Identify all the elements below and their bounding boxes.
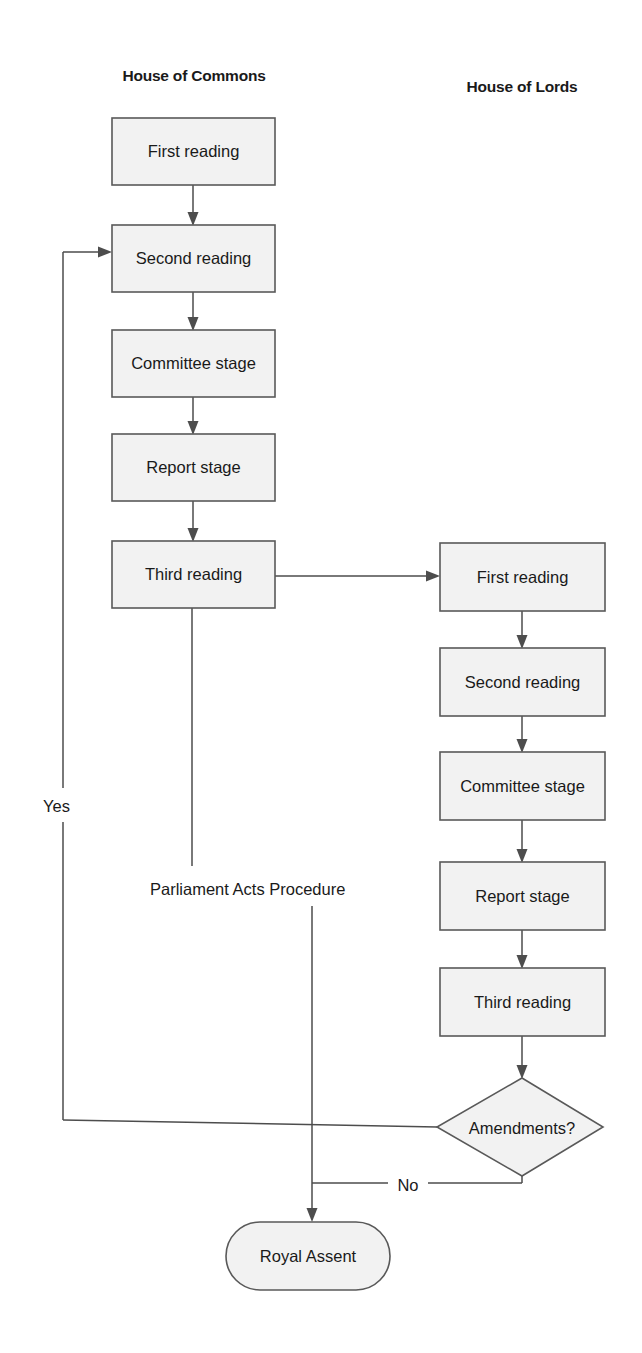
edge-parliament-acts-procedure-to-royal-assent: [192, 608, 318, 1222]
node-label-decision-amendments: Amendments?: [469, 1119, 575, 1137]
node-label-lords-first-reading: First reading: [477, 568, 569, 586]
node-label-lords-committee-stage: Committee stage: [460, 777, 585, 795]
node-label-commons-committee-stage: Committee stage: [131, 354, 256, 372]
annotation-parliament-acts-procedure: Parliament Acts Procedure: [150, 880, 345, 898]
edge-committee-stage-to-report-stage-commons: [188, 397, 199, 435]
node-commons-report-stage[interactable]: Report stage: [112, 434, 275, 501]
node-label-royal-assent: Royal Assent: [260, 1247, 357, 1265]
node-commons-third-reading[interactable]: Third reading: [112, 541, 275, 608]
node-commons-second-reading[interactable]: Second reading: [112, 225, 275, 292]
flowchart-canvas: House of Commons House of Lords: [0, 0, 642, 1353]
node-label-commons-second-reading: Second reading: [136, 249, 252, 267]
node-label-lords-second-reading: Second reading: [465, 673, 581, 691]
node-label-commons-report-stage: Report stage: [146, 458, 240, 476]
edge-first-to-second-reading-lords: [517, 611, 528, 649]
edge-second-reading-to-committee-stage-lords: [517, 716, 528, 753]
edge-label-yes: Yes: [43, 797, 70, 815]
node-lords-third-reading[interactable]: Third reading: [440, 968, 605, 1036]
node-royal-assent[interactable]: Royal Assent: [226, 1222, 390, 1290]
node-lords-report-stage[interactable]: Report stage: [440, 862, 605, 930]
edge-label-no: No: [397, 1176, 418, 1194]
node-lords-second-reading[interactable]: Second reading: [440, 648, 605, 716]
column-header-house-of-commons: House of Commons: [122, 67, 265, 84]
node-label-commons-first-reading: First reading: [148, 142, 240, 160]
node-commons-first-reading[interactable]: First reading: [112, 118, 275, 185]
node-label-commons-third-reading: Third reading: [145, 565, 242, 583]
node-label-lords-third-reading: Third reading: [474, 993, 571, 1011]
edge-second-reading-to-committee-stage-commons: [188, 292, 199, 331]
column-header-house-of-lords: House of Lords: [467, 78, 578, 95]
edge-third-reading-lords-to-amendments-decision: [517, 1036, 528, 1079]
edge-report-stage-to-third-reading-commons: [188, 501, 199, 542]
node-lords-committee-stage[interactable]: Committee stage: [440, 752, 605, 820]
node-label-lords-report-stage: Report stage: [475, 887, 569, 905]
node-lords-first-reading[interactable]: First reading: [440, 543, 605, 611]
node-decision-amendments[interactable]: Amendments?: [437, 1078, 603, 1176]
node-commons-committee-stage[interactable]: Committee stage: [112, 330, 275, 397]
edge-first-to-second-reading-commons: [188, 185, 199, 226]
edge-commons-third-reading-to-lords-first-reading: [275, 571, 440, 582]
edge-committee-stage-to-report-stage-lords: [517, 820, 528, 863]
edge-report-stage-to-third-reading-lords: [517, 930, 528, 969]
parliament-bill-flowchart: House of Commons House of Lords: [0, 0, 642, 1353]
